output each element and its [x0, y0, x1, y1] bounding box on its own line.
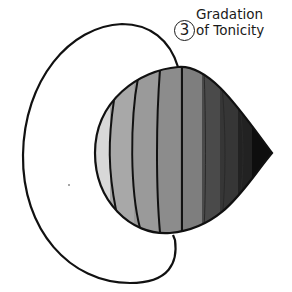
tonicity-diagram	[0, 0, 292, 292]
annotation-title: Gradation of Tonicity	[196, 6, 264, 38]
stray-dot	[68, 184, 70, 186]
annotation-title-line1: Gradation	[196, 6, 264, 22]
annotation-number: 3	[174, 20, 195, 41]
annotation-title-line2: of Tonicity	[196, 22, 264, 38]
